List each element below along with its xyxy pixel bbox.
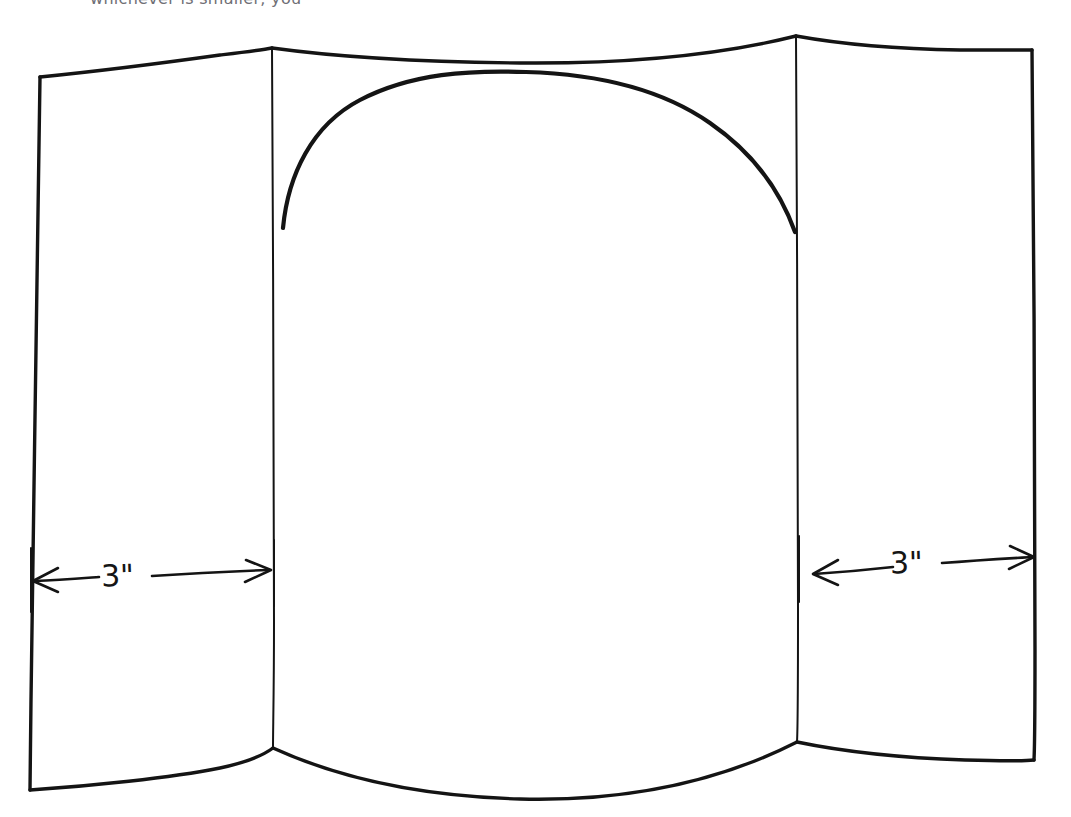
right-dimension-right-shaft — [942, 557, 1032, 563]
top-edge-left-segment — [40, 48, 272, 77]
right-fold-line — [796, 36, 798, 742]
left-dimension — [31, 540, 274, 612]
right-panel-dimension-label: 3" — [890, 545, 924, 581]
left-panel-dimension-label: 3" — [100, 557, 134, 593]
left-dimension-left-shaft — [34, 577, 99, 581]
bottom-edge-right-segment — [797, 742, 1034, 761]
right-outer-edge — [1032, 50, 1035, 760]
drawing-page: whichever is smaller, you — [0, 0, 1071, 817]
bottom-edge-center-segment — [273, 742, 797, 799]
center-arch-curve — [283, 72, 795, 232]
left-outer-edge — [30, 77, 40, 790]
top-edge-center-segment — [272, 36, 796, 63]
left-dimension-right-shaft — [152, 570, 268, 576]
top-edge-right-segment — [796, 36, 1032, 50]
left-fold-line — [272, 48, 274, 748]
trifold-panel-diagram — [0, 0, 1071, 817]
bottom-edge-left-segment — [30, 748, 273, 790]
